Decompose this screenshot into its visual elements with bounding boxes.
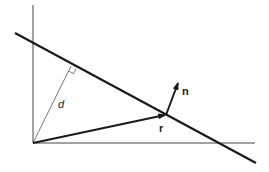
label-d: d [58,98,65,110]
perpendicular-d-line [33,66,71,143]
label-r: r [159,122,164,134]
vector-n-arrow [166,83,178,115]
label-n: n [182,85,189,97]
diagram-canvas: d n r [0,0,269,172]
vector-r-arrow [33,115,165,143]
diagram-svg: d n r [0,0,269,172]
